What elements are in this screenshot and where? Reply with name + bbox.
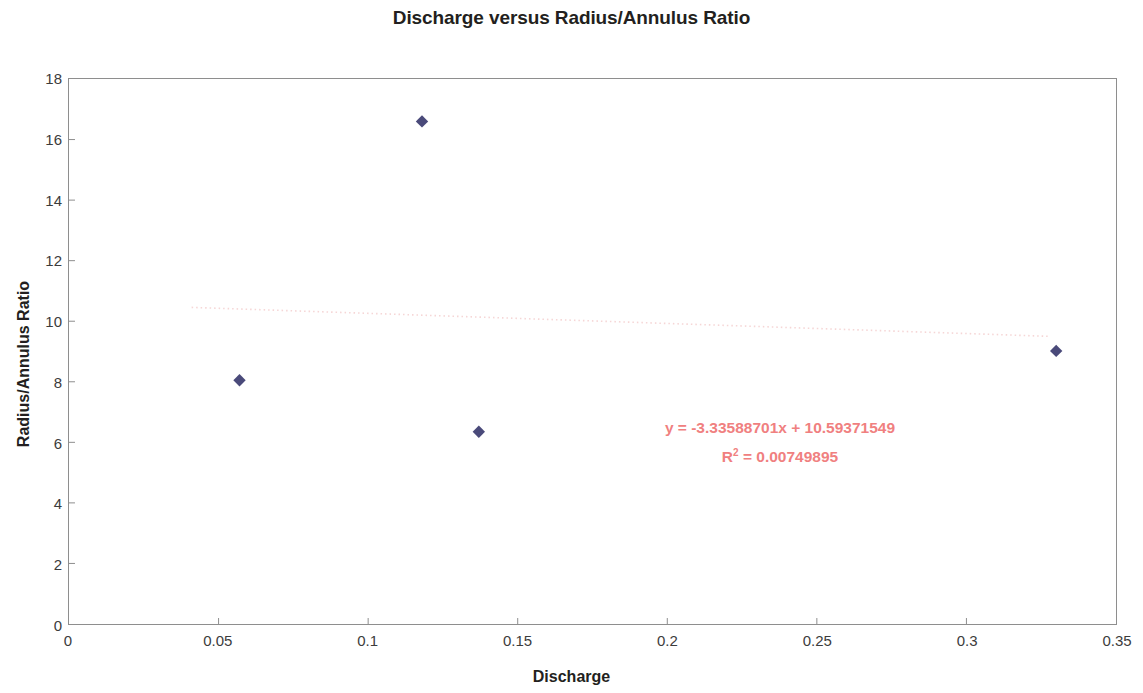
x-tick-label: 0.2	[627, 632, 707, 649]
x-axis-title: Discharge	[0, 668, 1143, 686]
data-point-marker	[416, 115, 428, 127]
x-tick-label: 0.05	[178, 632, 258, 649]
y-tick-label: 18	[20, 70, 62, 87]
y-axis-tick-labels: 024681012141618	[14, 78, 62, 625]
x-tick-label: 0.25	[777, 632, 857, 649]
x-tick-label: 0.3	[927, 632, 1007, 649]
trendline-equation-text: y = -3.33588701x + 10.59371549	[560, 415, 1000, 440]
y-tick-label: 10	[20, 313, 62, 330]
x-tick-label: 0.1	[328, 632, 408, 649]
plot-area	[68, 78, 1117, 625]
y-tick-label: 4	[20, 495, 62, 512]
rsquared-symbol: R	[722, 448, 733, 465]
chart-container: Discharge versus Radius/Annulus Ratio Ra…	[0, 0, 1143, 693]
trendline-rsquared-text: R2 = 0.00749895	[560, 440, 1000, 469]
plot-svg	[69, 79, 1116, 624]
y-tick-label: 12	[20, 252, 62, 269]
data-point-marker	[473, 426, 485, 438]
rsquared-value: = 0.00749895	[739, 448, 839, 465]
x-axis-tick-labels: 00.050.10.150.20.250.30.35	[68, 632, 1117, 654]
data-point-marker	[1050, 345, 1062, 357]
x-tick-label: 0.15	[478, 632, 558, 649]
y-tick-label: 0	[20, 617, 62, 634]
y-tick-label: 14	[20, 191, 62, 208]
y-tick-label: 6	[20, 434, 62, 451]
y-tick-label: 16	[20, 130, 62, 147]
x-tick-label: 0.35	[1077, 632, 1143, 649]
y-tick-label: 8	[20, 373, 62, 390]
y-tick-label: 2	[20, 556, 62, 573]
x-tick-label: 0	[28, 632, 108, 649]
trendline	[192, 307, 1051, 336]
data-point-marker	[233, 374, 245, 386]
trendline-equation-annotation: y = -3.33588701x + 10.59371549 R2 = 0.00…	[560, 415, 1000, 469]
chart-title: Discharge versus Radius/Annulus Ratio	[0, 7, 1143, 29]
